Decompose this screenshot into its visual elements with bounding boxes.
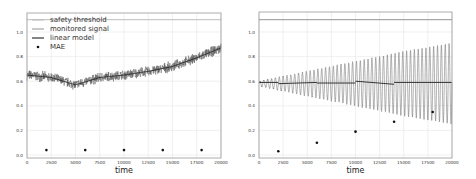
left-chart-panel: 0.00.20.40.60.81.00250050007500100001250…	[0, 0, 238, 179]
x-tick-label: 20000	[445, 160, 459, 165]
x-axis-label: time	[346, 166, 364, 175]
legend-label: linear model	[50, 34, 94, 42]
mae-point	[84, 149, 87, 152]
x-tick-label: 12500	[142, 160, 156, 165]
mae-point	[162, 149, 165, 152]
mae-point	[123, 149, 126, 152]
mae-point	[45, 149, 48, 152]
y-tick-label: 1.0	[248, 30, 255, 35]
mae-point	[200, 149, 203, 152]
x-tick-label: 0	[258, 160, 261, 165]
legend-marker	[37, 46, 40, 49]
y-tick-label: 0.0	[16, 153, 23, 158]
left-chart: 0.00.20.40.60.81.00250050007500100001250…	[0, 0, 238, 179]
x-tick-label: 15000	[397, 160, 411, 165]
mae-point	[277, 150, 280, 153]
legend-label: monitored signal	[50, 25, 109, 33]
legend-label: MAE	[50, 43, 65, 51]
mae-point	[354, 130, 357, 133]
mae-point	[316, 141, 319, 144]
legend-label: safety threshold	[50, 16, 107, 24]
x-tick-label: 5000	[302, 160, 313, 165]
mae-point	[431, 111, 434, 114]
right-chart: 0.00.20.40.60.81.00250050007500100001250…	[232, 0, 476, 179]
x-tick-label: 17500	[190, 160, 204, 165]
y-tick-label: 0.8	[248, 54, 255, 59]
x-tick-label: 15000	[166, 160, 180, 165]
y-tick-label: 0.2	[16, 128, 23, 133]
x-tick-label: 12500	[373, 160, 387, 165]
right-chart-panel: 0.00.20.40.60.81.00250050007500100001250…	[232, 0, 470, 179]
y-tick-label: 0.4	[16, 103, 23, 108]
x-tick-label: 2500	[278, 160, 289, 165]
x-tick-label: 2500	[46, 160, 57, 165]
x-tick-label: 5000	[70, 160, 81, 165]
x-tick-label: 17500	[421, 160, 435, 165]
y-tick-label: 1.0	[16, 30, 23, 35]
y-tick-label: 0.8	[16, 54, 23, 59]
mae-point	[393, 120, 396, 123]
x-tick-label: 7500	[94, 160, 105, 165]
x-tick-label: 0	[26, 160, 29, 165]
legend: safety thresholdmonitored signallinear m…	[32, 16, 109, 51]
y-tick-label: 0.6	[16, 79, 23, 84]
x-tick-label: 10000	[117, 160, 131, 165]
y-tick-label: 0.0	[248, 153, 255, 158]
x-tick-label: 7500	[326, 160, 337, 165]
y-tick-label: 0.2	[248, 128, 255, 133]
y-tick-label: 0.4	[248, 103, 255, 108]
x-axis-label: time	[115, 166, 133, 175]
x-tick-label: 10000	[349, 160, 363, 165]
y-tick-label: 0.6	[248, 79, 255, 84]
x-tick-label: 20000	[214, 160, 228, 165]
